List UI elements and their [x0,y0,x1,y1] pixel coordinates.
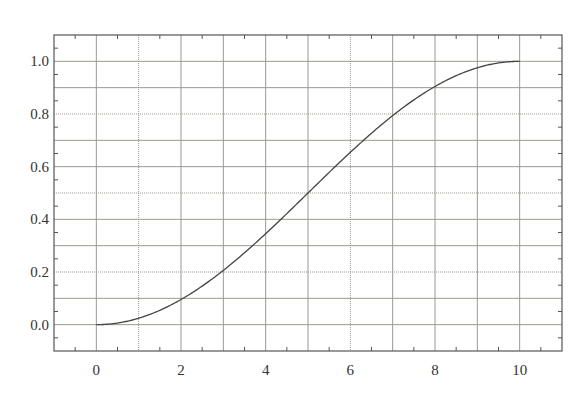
x-tick-label: 8 [431,362,439,378]
y-tick-label: 0.4 [30,211,49,227]
y-tick-label: 0.0 [30,317,49,333]
line-chart: 0246810 0.00.20.40.60.81.0 [0,0,584,396]
y-tick-label: 1.0 [30,53,49,69]
y-tick-label: 0.8 [30,106,49,122]
x-tick-label: 2 [177,362,185,378]
x-tick-label: 6 [347,362,355,378]
x-tick-label: 0 [93,362,101,378]
y-axis-tick-labels: 0.00.20.40.60.81.0 [30,53,49,332]
y-tick-label: 0.2 [30,264,49,280]
y-tick-label: 0.6 [30,159,49,175]
x-tick-label: 10 [512,362,527,378]
x-tick-label: 4 [262,362,270,378]
x-axis-tick-labels: 0246810 [93,362,528,378]
